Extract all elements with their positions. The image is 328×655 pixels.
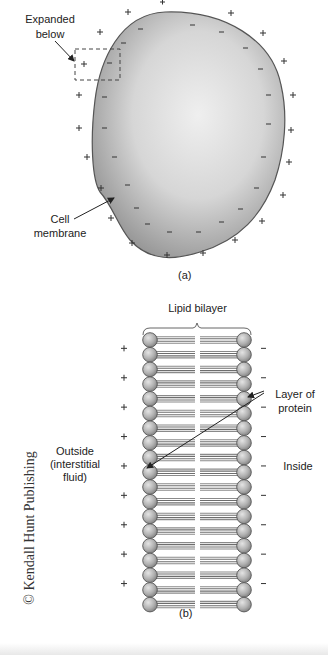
- phospholipid-row: [143, 465, 252, 480]
- phospholipid-row: [143, 568, 252, 583]
- phospholipid-row: [143, 524, 252, 539]
- label-expanded: Expanded: [20, 13, 80, 26]
- phospholipid-row: [143, 450, 252, 465]
- label-outside: Outside: [40, 445, 110, 458]
- plus-charge: [121, 345, 127, 351]
- phospholipid-row: [143, 539, 252, 554]
- label-membrane: membrane: [30, 227, 90, 240]
- bilayer-brace: [143, 323, 251, 335]
- lipid-bilayer: [121, 323, 266, 612]
- label-layer-of: Layer of: [265, 388, 325, 401]
- plus-charge: [121, 581, 127, 587]
- phospholipid-row: [143, 436, 252, 451]
- label-cell: Cell: [30, 213, 90, 226]
- phospholipid-row: [143, 583, 252, 598]
- plus-charge: [121, 463, 127, 469]
- expanded-arrow: [55, 41, 74, 61]
- phospholipid-row: [143, 406, 252, 421]
- phospholipid-row: [143, 597, 252, 612]
- plus-charge: [121, 522, 127, 528]
- phospholipid-row: [143, 362, 252, 377]
- phospholipid-row: [143, 421, 252, 436]
- cell-membrane: [92, 12, 285, 258]
- phospholipid-row: [143, 553, 252, 568]
- phospholipid-row: [143, 494, 252, 509]
- phospholipid-row: [143, 377, 252, 392]
- phospholipid-row: [143, 480, 252, 495]
- phospholipid-row: [143, 333, 252, 348]
- caption-b: (b): [179, 607, 192, 619]
- credit-text: © Kendall Hunt Publishing: [22, 448, 38, 608]
- phospholipid-row: [143, 509, 252, 524]
- label-below: below: [20, 28, 80, 41]
- diagram-canvas: [0, 0, 328, 655]
- plus-charge: [121, 404, 127, 410]
- plus-charge: [121, 434, 127, 440]
- page-edge: [0, 643, 328, 655]
- plus-charge: [121, 492, 127, 498]
- label-fluid: fluid): [40, 471, 110, 484]
- label-interstitial: (interstitial: [40, 458, 110, 471]
- plus-charge: [121, 375, 127, 381]
- phospholipid-row: [143, 392, 252, 407]
- plus-charge: [121, 551, 127, 557]
- bilayer-title: Lipid bilayer: [150, 302, 245, 315]
- label-protein: protein: [265, 402, 325, 415]
- label-inside: Inside: [268, 460, 328, 473]
- phospholipid-row: [143, 347, 252, 362]
- cell-a: [55, 0, 296, 258]
- caption-a: (a): [178, 269, 191, 281]
